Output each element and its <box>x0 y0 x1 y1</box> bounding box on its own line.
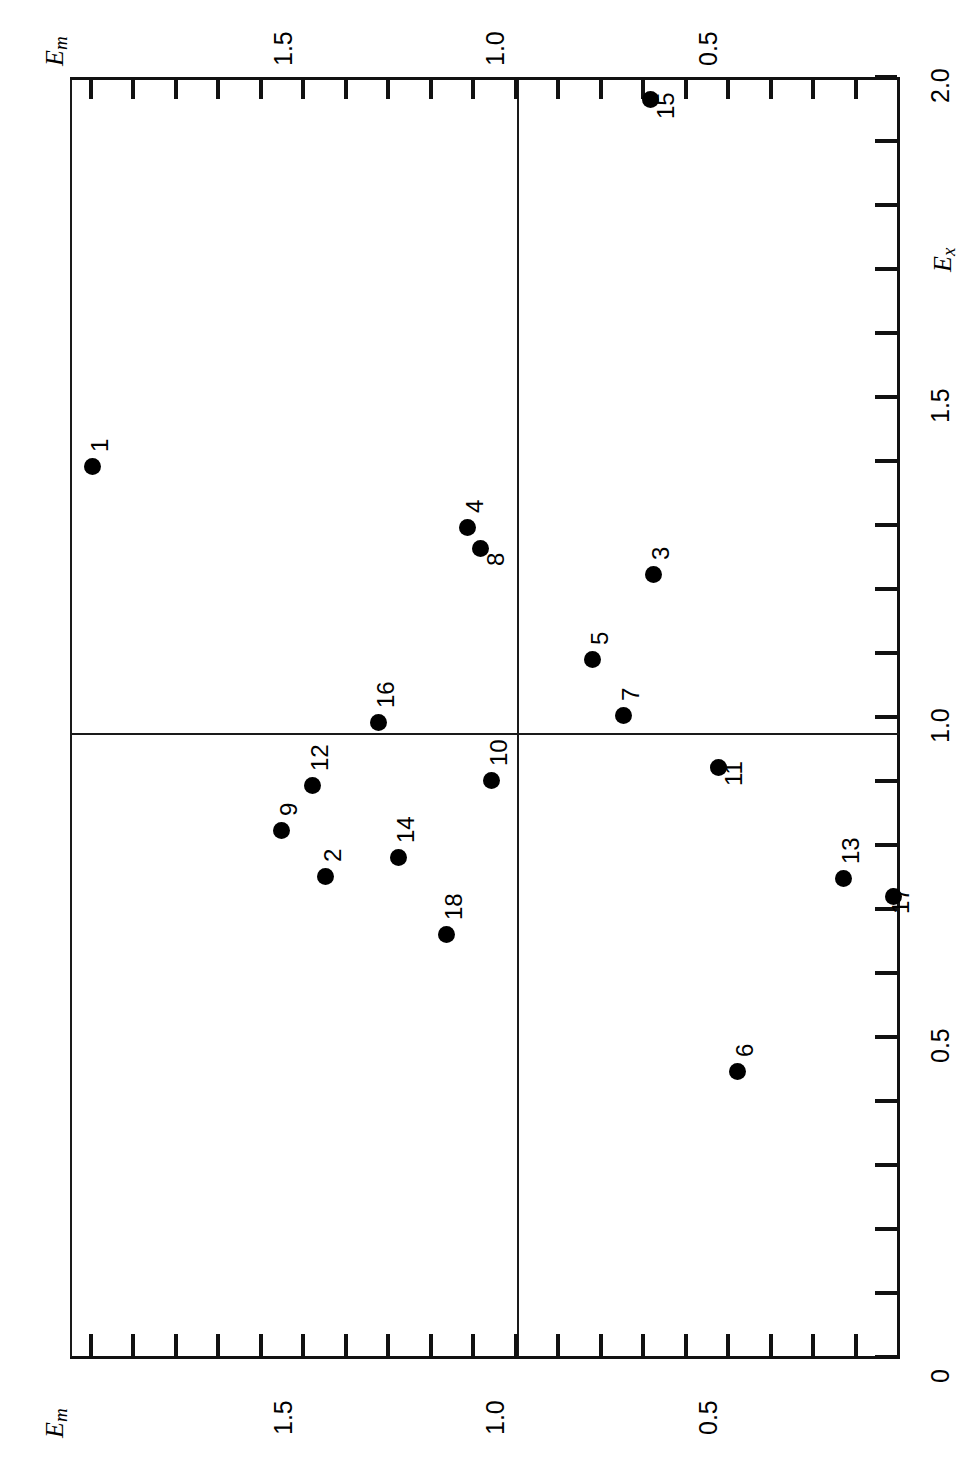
tick-ex-1.5 <box>875 395 897 399</box>
data-point-16 <box>370 714 387 731</box>
data-point-label-18: 18 <box>442 893 466 920</box>
tick-em-bottom-0.7 <box>599 1334 603 1356</box>
data-point-label-8: 8 <box>484 553 508 566</box>
tick-ex-2 <box>875 75 897 79</box>
tick-em-top-1.5 <box>259 77 263 99</box>
tick-em-top-0.1 <box>854 77 858 99</box>
data-point-label-6: 6 <box>733 1044 757 1057</box>
data-point-label-16: 16 <box>374 681 398 708</box>
tick-ex-1.7 <box>875 267 897 271</box>
tick-em-bottom-0.9 <box>514 1334 518 1356</box>
data-point-label-12: 12 <box>308 744 332 771</box>
data-point-9 <box>273 822 290 839</box>
data-point-12 <box>304 777 321 794</box>
axis-title-ex-right: Ex <box>928 248 958 272</box>
axis-title-em-bottom: Em <box>40 1408 70 1438</box>
reference-line-ex-1.0 <box>70 733 899 735</box>
data-point-6 <box>729 1063 746 1080</box>
data-point-2 <box>317 868 334 885</box>
tick-ex-0.1 <box>875 1291 897 1295</box>
data-point-14 <box>390 849 407 866</box>
tick-em-top-0.4 <box>726 77 730 99</box>
tick-em-top-0.9 <box>514 77 518 99</box>
tick-ex-0.9 <box>875 779 897 783</box>
tick-em-bottom-0.3 <box>769 1334 773 1356</box>
data-point-label-4: 4 <box>463 500 487 513</box>
tick-label-em-bottom-1.0: 1.0 <box>483 1400 508 1435</box>
tick-em-bottom-1.9 <box>89 1334 93 1356</box>
tick-em-top-1.6 <box>216 77 220 99</box>
data-point-label-3: 3 <box>649 547 673 560</box>
data-point-label-7: 7 <box>619 688 643 701</box>
tick-em-top-1 <box>471 77 475 99</box>
tick-em-top-0.7 <box>599 77 603 99</box>
tick-ex-1.8 <box>875 203 897 207</box>
tick-em-bottom-0.4 <box>726 1334 730 1356</box>
data-point-label-10: 10 <box>487 739 511 766</box>
tick-ex-0.8 <box>875 843 897 847</box>
tick-em-top-1.2 <box>386 77 390 99</box>
data-point-4 <box>459 519 476 536</box>
tick-ex-1.9 <box>875 139 897 143</box>
data-point-label-13: 13 <box>839 837 863 864</box>
tick-label-em-top-1.5: 1.5 <box>271 31 296 66</box>
tick-em-bottom-1 <box>471 1334 475 1356</box>
tick-ex-1.1 <box>875 651 897 655</box>
tick-ex-1.2 <box>875 587 897 591</box>
tick-em-bottom-1.6 <box>216 1334 220 1356</box>
tick-em-bottom-1.5 <box>259 1334 263 1356</box>
tick-em-bottom-0.2 <box>811 1334 815 1356</box>
data-point-label-11: 11 <box>722 761 746 786</box>
tick-em-bottom-1.3 <box>344 1334 348 1356</box>
tick-ex-0.2 <box>875 1227 897 1231</box>
axis-title-subscript: x <box>938 248 959 256</box>
data-point-3 <box>645 566 662 583</box>
tick-label-ex-2.0: 2.0 <box>928 68 953 103</box>
tick-label-em-top-0.5: 0.5 <box>696 31 721 66</box>
tick-label-em-bottom-1.5: 1.5 <box>271 1400 296 1435</box>
tick-em-bottom-1.8 <box>131 1334 135 1356</box>
tick-em-top-1.9 <box>89 77 93 99</box>
data-point-1 <box>84 458 101 475</box>
tick-label-ex-0.5: 0.5 <box>928 1028 953 1063</box>
reference-line-em-1.0 <box>517 80 519 1357</box>
data-point-label-1: 1 <box>88 439 112 452</box>
axis-title-em-top: Em <box>40 36 70 66</box>
tick-em-top-0.3 <box>769 77 773 99</box>
data-point-7 <box>615 707 632 724</box>
tick-ex-1 <box>875 715 897 719</box>
tick-label-ex-0: 0 <box>928 1369 953 1383</box>
tick-label-em-top-1.0: 1.0 <box>483 31 508 66</box>
tick-ex-1.6 <box>875 331 897 335</box>
tick-label-ex-1.5: 1.5 <box>928 388 953 423</box>
tick-em-bottom-1.2 <box>386 1334 390 1356</box>
tick-ex-0.5 <box>875 1035 897 1039</box>
tick-em-top-1.1 <box>429 77 433 99</box>
data-point-label-5: 5 <box>588 632 612 645</box>
tick-label-ex-1.0: 1.0 <box>928 708 953 743</box>
axis-spine-bottom-em <box>70 1356 900 1359</box>
tick-ex-0.3 <box>875 1163 897 1167</box>
scatter-plot-figure: 1.51.51.01.00.50.52.01.51.00.50 12345678… <box>0 0 978 1480</box>
tick-ex-0 <box>875 1355 897 1359</box>
tick-label-em-bottom-0.5: 0.5 <box>696 1400 721 1435</box>
tick-em-bottom-0.5 <box>684 1334 688 1356</box>
tick-em-top-1.3 <box>344 77 348 99</box>
data-point-13 <box>835 870 852 887</box>
tick-em-bottom-1.7 <box>174 1334 178 1356</box>
data-point-label-14: 14 <box>394 816 418 843</box>
data-point-label-15: 15 <box>654 92 678 119</box>
tick-ex-1.3 <box>875 523 897 527</box>
tick-em-top-0.2 <box>811 77 815 99</box>
tick-ex-0.4 <box>875 1099 897 1103</box>
tick-em-bottom-0.8 <box>556 1334 560 1356</box>
tick-em-top-1.8 <box>131 77 135 99</box>
axis-title-subscript: m <box>50 36 71 50</box>
tick-em-bottom-1.1 <box>429 1334 433 1356</box>
axis-spine-right-ex <box>897 77 900 1359</box>
tick-em-top-0.8 <box>556 77 560 99</box>
data-point-label-17: 17 <box>889 887 913 914</box>
tick-em-top-1.4 <box>301 77 305 99</box>
tick-em-top-1.7 <box>174 77 178 99</box>
data-point-18 <box>438 926 455 943</box>
